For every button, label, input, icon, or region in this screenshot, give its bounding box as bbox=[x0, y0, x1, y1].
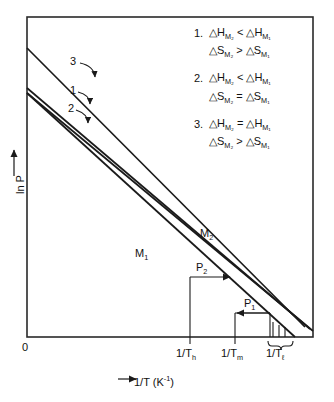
curve-label-M2-sub: 2 bbox=[209, 233, 213, 242]
callout-arrow-1 bbox=[78, 92, 90, 104]
curve-label-M1-base: M bbox=[135, 247, 144, 259]
xtick-label-Th-base: 1/T bbox=[176, 347, 192, 359]
entropy-symbol-2: S bbox=[254, 135, 261, 147]
curve-label-M1-sub: 1 bbox=[144, 253, 148, 262]
figure-root: 1. △HM₂ < △HM₁ △SM₂ > △SM₁ 2. △HM₂ < bbox=[0, 0, 334, 402]
delta-symbol-2: △ bbox=[246, 135, 254, 147]
xtick-label-Tl-sub: ℓ bbox=[282, 353, 284, 362]
arrow-label-P1-sub: 1 bbox=[251, 303, 255, 312]
callout-arrow-2 bbox=[76, 110, 88, 123]
xtick-label-Tm-sub: m bbox=[237, 353, 243, 362]
xtick-label-Th-sub: h bbox=[192, 353, 196, 362]
subscript-m1: M₁ bbox=[262, 123, 271, 132]
subscript-m1: M₁ bbox=[261, 50, 270, 59]
callout-arrow-3 bbox=[80, 63, 95, 77]
xaxis-label: 1/T (K-1) bbox=[134, 374, 174, 388]
curve-label-M2-base: M bbox=[200, 227, 209, 239]
entropy-symbol-2: S bbox=[254, 90, 261, 102]
enthalpy-symbol: H bbox=[217, 71, 225, 83]
legend-item-1-eq1: △HM₂ < △HM₁ bbox=[209, 26, 271, 41]
legend-item-3-number: 3. bbox=[194, 117, 209, 130]
legend-item-2-eq1: △HM₂ < △HM₁ bbox=[209, 71, 271, 86]
comparison-operator: < bbox=[237, 26, 243, 38]
xaxis-label-prefix: 1/T (K bbox=[134, 376, 164, 388]
xtick-label-Tl: 1/Tℓ bbox=[266, 348, 284, 361]
delta-symbol-2: △ bbox=[246, 90, 254, 102]
legend-item-1: 1. △HM₂ < △HM₁ △SM₂ > △SM₁ bbox=[194, 26, 328, 62]
subscript-m2: M₂ bbox=[224, 96, 233, 105]
enthalpy-symbol: H bbox=[217, 26, 225, 38]
comparison-operator: > bbox=[236, 44, 242, 56]
comparison-operator: > bbox=[236, 135, 242, 147]
legend-item-3: 3. △HM₂ = △HM₁ △SM₂ > △SM₁ bbox=[194, 117, 328, 153]
legend-item-3-eq2: △SM₂ > △SM₁ bbox=[209, 135, 271, 150]
xtick-label-Tm-base: 1/T bbox=[221, 347, 237, 359]
legend-item-3-eq1: △HM₂ = △HM₁ bbox=[209, 117, 271, 132]
comparison-operator: = bbox=[237, 117, 243, 129]
legend-item-1-number: 1. bbox=[194, 26, 209, 39]
legend-item-2-number: 2. bbox=[194, 71, 209, 84]
subscript-m1: M₁ bbox=[261, 141, 270, 150]
yaxis-label: ln P bbox=[14, 175, 26, 194]
delta-symbol: △ bbox=[209, 90, 217, 102]
comparison-operator: < bbox=[237, 71, 243, 83]
curve-label-M1: M1 bbox=[135, 248, 148, 261]
yaxis-label-wrapper: ln P bbox=[8, 134, 36, 194]
legend-item-1-equations: △HM₂ < △HM₁ △SM₂ > △SM₁ bbox=[209, 26, 271, 62]
xaxis-label-suffix: ) bbox=[170, 376, 174, 388]
subscript-m2: M₂ bbox=[225, 78, 234, 87]
delta-symbol-2: △ bbox=[246, 44, 254, 56]
comparison-operator: = bbox=[236, 90, 242, 102]
origin-label: 0 bbox=[22, 341, 28, 353]
subscript-m2: M₂ bbox=[224, 141, 233, 150]
subscript-m2: M₂ bbox=[225, 32, 234, 41]
delta-symbol: △ bbox=[209, 117, 217, 129]
line-label-3: 3 bbox=[70, 56, 76, 67]
curve-label-M2: M2 bbox=[200, 228, 213, 241]
arrow-label-P2: P2 bbox=[196, 262, 207, 275]
subscript-m2: M₂ bbox=[225, 123, 234, 132]
entropy-symbol-2: S bbox=[254, 44, 261, 56]
subscript-m1: M₁ bbox=[262, 78, 271, 87]
legend-item-2-eq2: △SM₂ = △SM₁ bbox=[209, 90, 271, 105]
legend-item-3-equations: △HM₂ = △HM₁ △SM₂ > △SM₁ bbox=[209, 117, 271, 153]
delta-symbol: △ bbox=[209, 71, 217, 83]
arrow-label-P1: P1 bbox=[244, 298, 255, 311]
legend-item-2: 2. △HM₂ < △HM₁ △SM₂ = △SM₁ bbox=[194, 71, 328, 107]
legend: 1. △HM₂ < △HM₁ △SM₂ > △SM₁ 2. △HM₂ < bbox=[194, 26, 328, 162]
line-label-1: 1 bbox=[70, 85, 76, 96]
subscript-m1: M₁ bbox=[262, 32, 271, 41]
subscript-m2: M₂ bbox=[224, 50, 233, 59]
legend-item-2-equations: △HM₂ < △HM₁ △SM₂ = △SM₁ bbox=[209, 71, 271, 107]
enthalpy-symbol: H bbox=[217, 117, 225, 129]
delta-symbol: △ bbox=[209, 135, 217, 147]
subscript-m1: M₁ bbox=[261, 96, 270, 105]
line-label-2: 2 bbox=[68, 103, 74, 114]
delta-symbol: △ bbox=[209, 44, 217, 56]
legend-item-1-eq2: △SM₂ > △SM₁ bbox=[209, 44, 271, 59]
xtick-label-Th: 1/Th bbox=[176, 348, 196, 361]
xtick-label-Tm: 1/Tm bbox=[221, 348, 243, 361]
delta-symbol: △ bbox=[209, 26, 217, 38]
arrow-label-P2-sub: 2 bbox=[203, 267, 207, 276]
xtick-label-Tl-base: 1/T bbox=[266, 347, 282, 359]
